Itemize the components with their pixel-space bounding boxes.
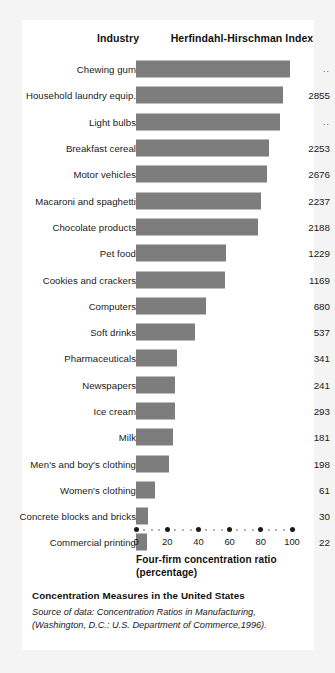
row-label-industry: Chewing gum xyxy=(77,64,136,75)
chart-row: Pharmaceuticals341 xyxy=(22,345,314,371)
chart-row: Milk181 xyxy=(22,424,314,450)
bar-track xyxy=(136,455,292,472)
bar-track xyxy=(136,166,292,183)
row-label-industry: Soft drinks xyxy=(90,327,136,338)
bar xyxy=(136,508,148,525)
bar xyxy=(136,376,175,393)
figure-source-note: Source of data: Concentration Ratios in … xyxy=(32,606,308,631)
axis-tick-label: 20 xyxy=(152,536,182,547)
x-axis-title-line2: (percentage) xyxy=(136,567,316,580)
row-value-hhi: 537 xyxy=(296,327,330,338)
row-label-industry: Newspapers xyxy=(82,379,136,390)
row-value-hhi: 61 xyxy=(296,484,330,495)
bar-track xyxy=(136,508,292,525)
row-label-industry: Cookies and crackers xyxy=(43,274,136,285)
chart-row: Chocolate products2188 xyxy=(22,214,314,240)
axis-minor-tick-dot xyxy=(174,529,176,531)
row-value-hhi: 181 xyxy=(296,432,330,443)
axis-tick-label: 100 xyxy=(277,536,307,547)
axis-major-tick-dot xyxy=(165,527,170,532)
chart-row: Pet food1229 xyxy=(22,240,314,266)
axis-minor-tick-dot xyxy=(143,529,145,531)
bar-track xyxy=(136,218,292,235)
row-value-hhi: 2855 xyxy=(296,90,330,101)
chart-row: Macaroni and spaghetti2237 xyxy=(22,187,314,213)
x-axis-title-line1: Four-firm concentration ratio xyxy=(136,554,316,567)
row-value-hhi: 1169 xyxy=(296,274,330,285)
row-value-hhi: 2253 xyxy=(296,143,330,154)
row-label-industry: Women's clothing xyxy=(60,484,136,495)
axis-tick-label: 40 xyxy=(183,536,213,547)
bar xyxy=(136,271,225,288)
figure-footer: Concentration Measures in the United Sta… xyxy=(32,590,308,631)
row-value-hhi: 2237 xyxy=(296,195,330,206)
axis-minor-tick-dot xyxy=(244,529,246,531)
row-label-industry: Chocolate products xyxy=(52,221,136,232)
row-label-industry: Motor vehicles xyxy=(73,169,136,180)
row-value-hhi: 198 xyxy=(296,458,330,469)
axis-tick-label: 80 xyxy=(246,536,276,547)
bar-track xyxy=(136,113,292,130)
axis-minor-tick-dot xyxy=(158,529,160,531)
bar xyxy=(136,350,177,367)
bar xyxy=(136,87,283,104)
axis-minor-tick-dot xyxy=(268,529,270,531)
axis-minor-tick-dot xyxy=(190,529,192,531)
bar-track xyxy=(136,376,292,393)
bar-track xyxy=(136,192,292,209)
chart-row: Soft drinks537 xyxy=(22,319,314,345)
row-label-industry: Men's and boy's clothing xyxy=(30,458,136,469)
row-label-industry: Pharmaceuticals xyxy=(64,353,136,364)
axis-tick-label: 60 xyxy=(215,536,245,547)
chart-row: Cookies and crackers1169 xyxy=(22,266,314,292)
row-value-hhi: 680 xyxy=(296,300,330,311)
axis-major-tick-dot xyxy=(196,527,201,532)
bar-track xyxy=(136,245,292,262)
column-header-industry: Industry xyxy=(72,32,164,44)
bar xyxy=(136,140,269,157)
row-label-industry: Breakfast cereal xyxy=(66,143,136,154)
row-value-hhi: 2188 xyxy=(296,221,330,232)
bar-track xyxy=(136,297,292,314)
x-axis-ticks xyxy=(136,526,292,536)
chart-row: Computers680 xyxy=(22,293,314,319)
chart-row: Men's and boy's clothing198 xyxy=(22,450,314,476)
axis-major-tick-dot xyxy=(134,527,139,532)
bar xyxy=(136,429,173,446)
bar xyxy=(136,481,155,498)
row-label-industry: Light bulbs xyxy=(89,116,136,127)
x-axis-title: Four-firm concentration ratio (percentag… xyxy=(136,554,316,579)
figure-caption-title: Concentration Measures in the United Sta… xyxy=(32,590,308,601)
column-header-hhi: Herfindahl-Hirschman Index xyxy=(170,32,314,44)
row-value-hhi: 293 xyxy=(296,406,330,417)
bar-track xyxy=(136,403,292,420)
bar xyxy=(136,403,175,420)
row-label-industry: Ice cream xyxy=(93,406,136,417)
figure-card: Industry Herfindahl-Hirschman Index Chew… xyxy=(22,20,314,650)
bar xyxy=(136,192,261,209)
column-headers: Industry Herfindahl-Hirschman Index xyxy=(22,32,314,50)
row-value-hhi: .. xyxy=(296,117,330,127)
axis-major-tick-dot xyxy=(290,527,295,532)
chart-row: Women's clothing61 xyxy=(22,477,314,503)
axis-minor-tick-dot xyxy=(182,529,184,531)
axis-minor-tick-dot xyxy=(221,529,223,531)
row-label-industry: Computers xyxy=(89,300,136,311)
bar xyxy=(136,166,267,183)
chart-row: Chewing gum.. xyxy=(22,56,314,82)
bar-track xyxy=(136,87,292,104)
bar xyxy=(136,113,280,130)
bar xyxy=(136,245,226,262)
axis-minor-tick-dot xyxy=(275,529,277,531)
axis-major-tick-dot xyxy=(227,527,232,532)
axis-minor-tick-dot xyxy=(236,529,238,531)
row-label-industry: Milk xyxy=(119,432,136,443)
axis-minor-tick-dot xyxy=(205,529,207,531)
axis-minor-tick-dot xyxy=(213,529,215,531)
bar-track xyxy=(136,350,292,367)
bar-track xyxy=(136,140,292,157)
bar xyxy=(136,324,195,341)
row-label-industry: Macaroni and spaghetti xyxy=(35,195,136,206)
row-value-hhi: 2676 xyxy=(296,169,330,180)
bar-chart-plot: Chewing gum..Household laundry equip.285… xyxy=(22,56,314,520)
